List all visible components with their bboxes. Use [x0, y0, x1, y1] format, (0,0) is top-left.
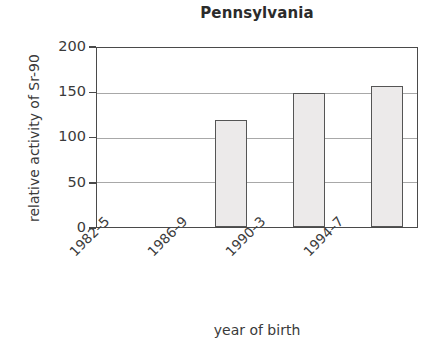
- x-tick-label-1986-9: 1986–9: [144, 199, 205, 260]
- x-tick-label-1994-7: 1994–7: [300, 199, 361, 260]
- x-axis-title: year of birth: [96, 322, 418, 338]
- x-tick-label-1990-3: 1990–3: [222, 199, 283, 260]
- x-tick-label-1982-5: 1982–5: [66, 199, 127, 260]
- x-axis-tick-labels: 1982–5 1986–9 1990–3 1994–7: [0, 0, 427, 354]
- bar-chart-figure: Pennsylvania relative activity of Sr-90 …: [0, 0, 427, 354]
